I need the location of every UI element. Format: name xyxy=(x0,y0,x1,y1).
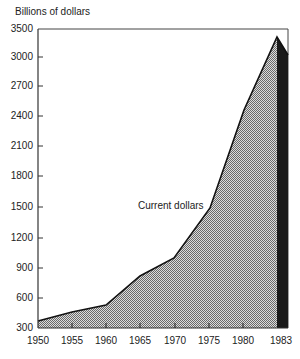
y-tick-label: 2400 xyxy=(0,111,33,121)
x-tick-label: 1960 xyxy=(91,335,121,346)
x-tick-label: 1965 xyxy=(125,335,155,346)
x-tick-label: 1980 xyxy=(228,335,258,346)
x-tick-label: 1955 xyxy=(57,335,87,346)
y-tick-label: 300 xyxy=(0,323,33,333)
x-tick-label: 1950 xyxy=(23,335,53,346)
y-tick-label: 1200 xyxy=(0,233,33,243)
y-tick-label: 900 xyxy=(0,263,33,273)
x-tick-label: 1983 xyxy=(266,335,296,346)
x-tick-label: 1970 xyxy=(160,335,190,346)
y-tick-label: 600 xyxy=(0,293,33,303)
y-tick-label: 3000 xyxy=(0,52,33,62)
area-current-dollars xyxy=(38,37,277,328)
series-annotation: Current dollars xyxy=(138,200,204,211)
x-tick-label: 1975 xyxy=(194,335,224,346)
y-tick-label: 1800 xyxy=(0,171,33,181)
y-axis-title: Billions of dollars xyxy=(15,6,90,17)
y-tick-label: 2700 xyxy=(0,81,33,91)
y-tick-label: 3500 xyxy=(0,24,33,34)
y-tick-label: 2100 xyxy=(0,141,33,151)
y-tick-label: 1500 xyxy=(0,202,33,212)
area-chart xyxy=(0,0,300,359)
area-dark-band xyxy=(277,37,288,328)
y-ticks xyxy=(38,57,43,298)
